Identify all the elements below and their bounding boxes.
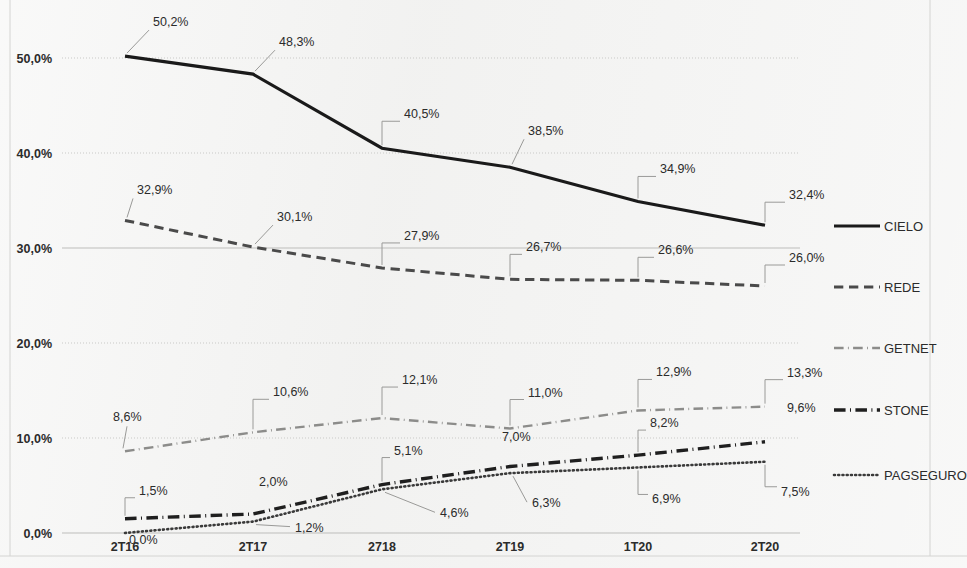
- label-leader: [510, 400, 524, 426]
- y-tick-label: 40,0%: [17, 147, 52, 161]
- label-leader: [765, 380, 783, 404]
- gridlines-group: [62, 58, 800, 533]
- data-label-stone-2718: 5,1%: [394, 444, 423, 458]
- y-tick-label: 10,0%: [17, 432, 52, 446]
- data-label-cielo-2718: 40,5%: [404, 107, 439, 121]
- label-leader: [385, 492, 435, 512]
- data-label-stone-2T17: 2,0%: [259, 475, 288, 489]
- label-leader: [382, 387, 398, 415]
- label-leader: [765, 202, 785, 222]
- data-label-pagseguro-2T17: 1,2%: [295, 521, 324, 535]
- label-leader: [127, 30, 149, 53]
- series-line-cielo: [125, 56, 765, 225]
- data-label-pagseguro-2T20: 7,5%: [781, 485, 810, 499]
- data-label-cielo-2T17: 48,3%: [279, 35, 314, 49]
- data-label-stone-1T20: 8,2%: [650, 416, 679, 430]
- y-tick-label: 30,0%: [17, 242, 52, 256]
- data-label-stone-2T20: 9,6%: [787, 401, 816, 415]
- data-label-stone-2T19: 7,0%: [502, 430, 531, 444]
- label-leader: [382, 243, 400, 265]
- data-label-pagseguro-2718: 4,6%: [440, 506, 469, 520]
- data-label-getnet-2T16: 8,6%: [113, 410, 142, 424]
- label-leader: [510, 254, 522, 276]
- x-tick-label: 2T20: [751, 540, 780, 554]
- data-label-stone-2T16: 1,5%: [139, 484, 168, 498]
- data-label-getnet-2718: 12,1%: [402, 373, 437, 387]
- legend-label-cielo[interactable]: CIELO: [884, 219, 923, 234]
- y-tick-label: 0,0%: [24, 527, 53, 541]
- label-leader: [127, 198, 133, 217]
- label-leader-lines: [123, 30, 785, 526]
- y-axis-tick-labels: 0,0%10,0%20,0%30,0%40,0%50,0%: [17, 52, 52, 541]
- data-label-pagseguro-2T19: 6,3%: [532, 496, 561, 510]
- x-axis-tick-labels: 2T162T1727182T191T202T20: [111, 540, 780, 554]
- label-leader: [638, 176, 656, 198]
- label-leader: [123, 426, 127, 448]
- x-tick-label: 2T19: [496, 540, 525, 554]
- label-leader: [638, 379, 652, 407]
- y-tick-label: 50,0%: [17, 52, 52, 66]
- data-label-rede-2T17: 30,1%: [277, 210, 312, 224]
- label-leader: [382, 121, 400, 145]
- data-label-pagseguro-1T20: 6,9%: [652, 492, 681, 506]
- data-label-rede-2718: 27,9%: [404, 229, 439, 243]
- data-label-cielo-1T20: 34,9%: [660, 162, 695, 176]
- data-label-cielo-2T20: 32,4%: [789, 188, 824, 202]
- data-label-getnet-2T17: 10,6%: [273, 385, 308, 399]
- label-leader: [765, 465, 777, 487]
- y-tick-label: 20,0%: [17, 337, 52, 351]
- label-leader: [255, 50, 275, 71]
- data-label-cielo-2T19: 38,5%: [528, 124, 563, 138]
- data-label-cielo-2T16: 50,2%: [153, 15, 188, 29]
- data-label-rede-2T20: 26,0%: [789, 251, 824, 265]
- x-tick-label: 2T17: [239, 540, 268, 554]
- label-leader: [513, 476, 527, 502]
- data-labels-group: 50,2%48,3%40,5%38,5%34,9%32,4%32,9%30,1%…: [113, 15, 824, 547]
- series-lines-group: [125, 56, 765, 533]
- data-label-getnet-2T19: 11,0%: [528, 386, 563, 400]
- chart-legend: CIELOREDEGETNETSTONEPAGSEGURO: [834, 219, 967, 483]
- data-label-rede-2T19: 26,7%: [526, 240, 561, 254]
- label-leader: [256, 525, 290, 527]
- label-leader: [765, 265, 785, 283]
- label-leader: [638, 257, 654, 277]
- legend-label-rede[interactable]: REDE: [884, 280, 920, 295]
- chart-screenshot: 50,2%48,3%40,5%38,5%34,9%32,4%32,9%30,1%…: [0, 0, 967, 568]
- data-label-getnet-2T20: 13,3%: [787, 366, 822, 380]
- data-label-rede-1T20: 26,6%: [658, 243, 693, 257]
- data-label-rede-2T16: 32,9%: [137, 183, 172, 197]
- data-label-getnet-1T20: 12,9%: [656, 365, 691, 379]
- label-leader: [512, 139, 524, 164]
- legend-label-pagseguro[interactable]: PAGSEGURO: [884, 468, 967, 483]
- legend-label-getnet[interactable]: GETNET: [884, 341, 937, 356]
- label-leader: [638, 430, 646, 452]
- market-share-line-chart: 50,2%48,3%40,5%38,5%34,9%32,4%32,9%30,1%…: [0, 0, 967, 568]
- x-tick-label: 2T16: [111, 540, 140, 554]
- legend-label-stone[interactable]: STONE: [884, 403, 929, 418]
- label-leader: [638, 470, 648, 494]
- label-leader: [382, 458, 390, 482]
- x-tick-label: 2718: [368, 540, 396, 554]
- x-tick-label: 1T20: [624, 540, 653, 554]
- label-leader: [255, 225, 273, 244]
- label-leader: [253, 399, 269, 429]
- label-leader: [125, 498, 135, 516]
